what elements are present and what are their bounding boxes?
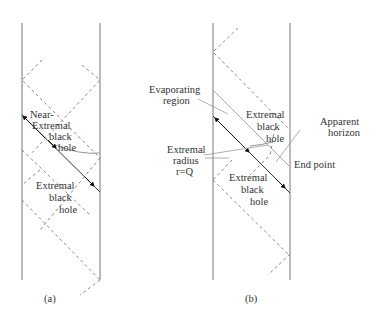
- label-apparent-1: Apparent: [320, 116, 359, 127]
- panel-a-diagram: [22, 23, 100, 295]
- arrow-icon: [216, 119, 240, 143]
- caption-b: (b): [245, 293, 257, 304]
- label-extremal-top-1: Extremal: [246, 109, 284, 120]
- arrow-icon: [276, 179, 284, 187]
- label-extremal-top-3: hole: [266, 133, 284, 144]
- label-extremal-a-3: hole: [59, 204, 77, 215]
- label-evaporating-1: Evaporating: [149, 84, 200, 95]
- label-evaporating-2: region: [163, 95, 190, 106]
- label-extremal-bottom-2: black: [241, 184, 264, 195]
- label-near-extremal-4: hole: [58, 142, 76, 153]
- null-lines-a: [22, 60, 100, 295]
- label-extremal-a-2: black: [49, 192, 72, 203]
- panel-b-diagram: [198, 23, 300, 280]
- label-apparent-2: horizon: [328, 127, 360, 138]
- label-extremal-bottom-1: Extremal: [229, 172, 267, 183]
- label-radius-1: Extremal: [167, 144, 205, 155]
- arrow-icon: [85, 177, 93, 185]
- label-radius-2: radius: [173, 155, 199, 166]
- label-extremal-a-1: Extremal: [36, 180, 74, 191]
- label-near-extremal-2: Extremal: [32, 120, 70, 131]
- label-extremal-top-2: black: [257, 121, 280, 132]
- label-extremal-bottom-3: hole: [250, 196, 268, 207]
- label-near-extremal-3: black: [49, 131, 72, 142]
- label-end-point: End point: [294, 159, 335, 170]
- caption-a: (a): [44, 293, 56, 304]
- label-radius-3: r=Q: [176, 166, 193, 177]
- label-near-extremal-1: Near-: [30, 109, 54, 120]
